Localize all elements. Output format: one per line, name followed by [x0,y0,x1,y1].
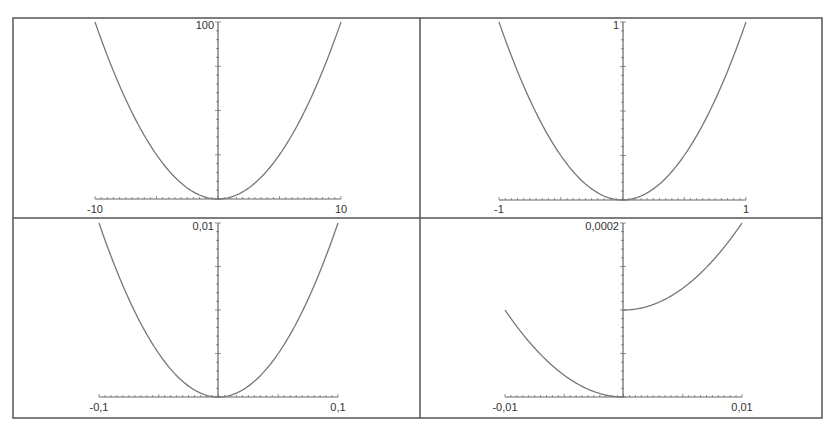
axes-top-left [95,22,341,199]
x-min-label-bottom-left: -0,1 [90,401,109,413]
y-max-label-bottom-left: 0,01 [193,220,214,232]
x-max-label-bottom-left: 0,1 [330,401,345,413]
x-min-label-bottom-right: -0,01 [492,401,517,413]
curve-bottom-right-left-branch [505,310,624,397]
x-min-label-top-left: -10 [87,203,103,215]
plot-grid: 100 -10 10 1 -1 1 0,01 -0,1 0,1 0,0002 -… [0,0,839,439]
panel-bottom-right: 0,0002 -0,01 0,01 [492,220,752,413]
panel-bottom-left: 0,01 -0,1 0,1 [90,220,346,413]
x-max-label-bottom-right: 0,01 [731,401,752,413]
curve-bottom-right-right-branch [624,223,743,310]
y-max-label-top-right: 1 [613,19,619,31]
axes-bottom-left [99,223,338,397]
y-max-label-top-left: 100 [196,19,214,31]
x-max-label-top-right: 1 [743,203,749,215]
x-max-label-top-left: 10 [335,203,347,215]
panel-top-left: 100 -10 10 [87,19,347,215]
panel-top-right: 1 -1 1 [494,19,749,215]
axes-top-right [499,22,746,200]
x-min-label-top-right: -1 [494,203,504,215]
y-max-label-bottom-right: 0,0002 [585,220,619,232]
